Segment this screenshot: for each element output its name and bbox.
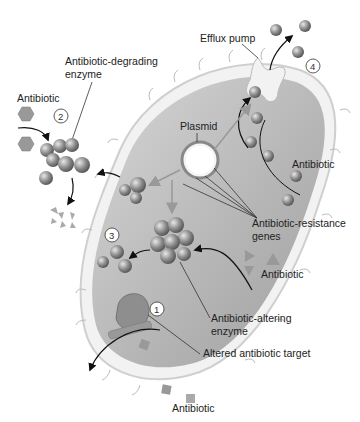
altered-target-label: Altered antibiotic target [203,347,310,359]
degrading-enzyme-label-1: Antibiotic-degrading [65,55,158,67]
antibiotic-top-left-label: Antibiotic [17,92,60,104]
svg-text:2: 2 [58,111,63,122]
altering-enzyme-label-1: Antibiotic-altering [211,312,292,324]
resistance-genes-label-1: Antibiotic-resistance [252,217,346,229]
svg-text:1: 1 [154,304,159,315]
svg-text:3: 3 [109,230,114,241]
resistance-genes-label-2: genes [252,230,281,242]
svg-text:4: 4 [310,61,315,72]
plasmid [182,142,218,178]
degraded-fragments [50,207,76,228]
antibiotic-right-label: Antibiotic [292,158,335,170]
efflux-pump-label: Efflux pump [200,32,255,44]
degrading-enzyme-label-2: enzyme [65,68,102,80]
degrading-enzyme-cluster [39,138,90,185]
antibiotic-bottom-label: Antibiotic [172,402,215,414]
plasmid-label: Plasmid [180,120,218,132]
antibiotic-mid-right-label: Antibiotic [261,268,304,280]
antibiotic-resistance-diagram: Plasmid Efflux pump 4 Antibiotic Antibio… [0,0,360,422]
altering-enzyme-label-2: enzyme [211,325,248,337]
